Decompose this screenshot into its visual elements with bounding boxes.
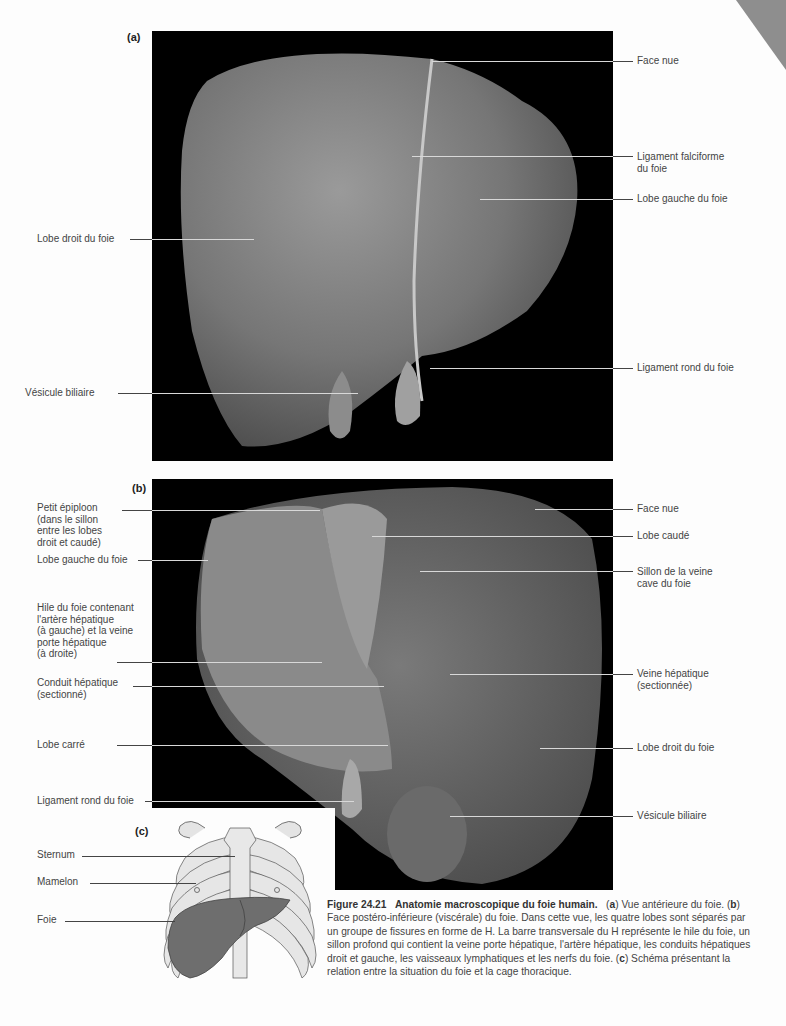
leader-line [117,662,152,663]
liver-anterior-photo [152,31,613,461]
caption-b-letter: b [730,899,736,910]
leader-line [613,536,633,537]
label-hile-du-foie: Hile du foie contenant l'artère hépatiqu… [37,602,134,660]
leader-line [152,393,358,394]
leader-line [152,662,322,663]
leader-line [82,856,235,857]
leader-line [613,674,633,675]
leader-line [613,199,633,200]
label-vesicule-a: Vésicule biliaire [25,387,94,399]
leader-line [152,801,354,802]
leader-line [450,816,613,817]
label-lobe-gauche-a: Lobe gauche du foie [637,193,728,205]
leader-line [65,921,175,922]
leader-line [133,686,152,687]
leader-line [540,748,613,749]
leader-line [122,510,152,511]
label-foie: Foie [37,914,56,926]
label-ligament-falciforme: Ligament falciforme du foie [637,151,724,174]
label-lobe-carre: Lobe carré [37,739,85,751]
leader-line [450,674,613,675]
leader-line [480,199,613,200]
label-lobe-gauche-b: Lobe gauche du foie [37,554,128,566]
leader-line [372,536,613,537]
label-vesicule-b: Vésicule biliaire [637,810,706,822]
panel-a-letter: (a) [127,31,140,43]
leader-line [118,393,152,394]
label-sternum: Sternum [37,849,75,861]
leader-line [613,509,633,510]
leader-line [613,156,633,157]
label-petit-epiploon: Petit épiploon (dans le sillon entre les… [37,502,102,548]
rib-cage-liver-illustration [150,808,335,983]
label-ligament-rond-b: Ligament rond du foie [37,795,134,807]
label-sillon-veine-cave: Sillon de la veine cave du foie [637,566,713,589]
label-mamelon: Mamelon [37,876,78,888]
leader-line [412,156,613,157]
label-ligament-rond-a: Ligament rond du foie [637,362,734,374]
leader-line [613,816,633,817]
panel-b-letter: (b) [132,482,146,494]
figure-title: Anatomie macroscopique du foie humain. [395,899,598,910]
figure-number: Figure 24.21 [327,899,386,910]
label-lobe-droit-b: Lobe droit du foie [637,742,714,754]
leader-line [145,801,152,802]
page-corner-curl [736,0,786,70]
leader-line [152,686,384,687]
leader-line [430,368,613,369]
label-veine-hepatique: Veine hépatique (sectionnée) [637,668,709,691]
leader-line [117,745,152,746]
panel-c-letter: (c) [135,825,148,837]
label-face-nue-b: Face nue [637,503,679,515]
leader-line [152,560,208,561]
liver-anterior-illustration [152,31,613,461]
leader-line [90,883,196,884]
leader-line [613,61,633,62]
leader-line [420,571,613,572]
caption-a-text: Vue antérieure du foie. ( [619,899,731,910]
leader-line [535,509,613,510]
leader-line [152,239,254,240]
leader-line [613,368,633,369]
leader-line [130,239,152,240]
leader-line [152,745,388,746]
label-face-nue-a: Face nue [637,55,679,67]
leader-line [432,61,613,62]
figure-caption: Figure 24.21 Anatomie macroscopique du f… [327,898,757,978]
caption-c-letter: c [619,953,625,964]
leader-line [152,510,320,511]
leader-line [613,748,633,749]
leader-line [138,560,152,561]
leader-line [613,571,633,572]
label-lobe-caude: Lobe caudé [637,530,689,542]
label-lobe-droit-a: Lobe droit du foie [37,233,114,245]
rib-cage-diagram [150,808,335,983]
caption-a-letter: a [610,899,616,910]
label-conduit-hepatique: Conduit hépatique (sectionné) [37,677,118,700]
